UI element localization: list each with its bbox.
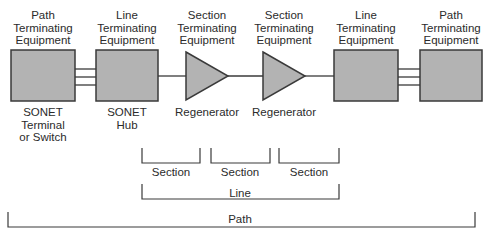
line-terminating-box-right [334,50,398,101]
section-bracket-3 [279,148,339,163]
label-path: Path [228,213,252,226]
label-line: Line [229,187,251,200]
label-sonet-hub: SONET Hub [107,106,147,131]
regenerator-2-triangle [263,52,305,100]
sonet-hub-box [96,50,158,101]
label-sonet-terminal: SONET Terminal or Switch [19,106,66,144]
label-section-3: Section [290,166,328,179]
label-regenerator-2: Regenerator [252,106,316,119]
label-path-terminating-left: Path Terminating Equipment [13,9,72,47]
label-section-1: Section [152,166,190,179]
path-terminating-box-right [420,50,482,101]
sonet-diagram [0,0,493,236]
label-section-2: Section [221,166,259,179]
label-section-terminating-2: Section Terminating Equipment [254,9,313,47]
label-line-terminating-right: Line Terminating Equipment [336,9,395,47]
label-line-terminating-left: Line Terminating Equipment [97,9,156,47]
sonet-terminal-box [11,50,75,101]
section-bracket-2 [211,148,270,163]
regenerator-1-triangle [186,52,228,100]
section-bracket-1 [142,148,200,163]
label-path-terminating-right: Path Terminating Equipment [421,9,480,47]
label-regenerator-1: Regenerator [175,106,239,119]
label-section-terminating-1: Section Terminating Equipment [177,9,236,47]
